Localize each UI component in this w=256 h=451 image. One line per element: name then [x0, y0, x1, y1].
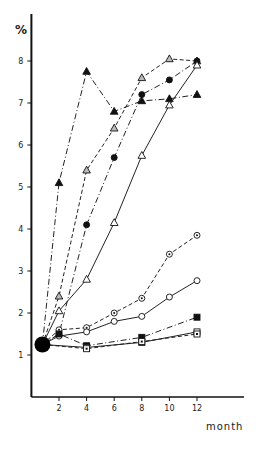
x-tick-label: 10: [164, 404, 174, 413]
filled-square-marker: [194, 314, 200, 320]
series-line: [42, 281, 197, 345]
y-tick-label: 8: [18, 57, 23, 66]
open-circle-marker: [194, 278, 200, 284]
x-tick-label: 2: [56, 404, 61, 413]
start-point-marker: [34, 337, 50, 353]
marker-dot: [141, 297, 143, 299]
marker-dot: [196, 234, 198, 236]
series-line: [42, 332, 197, 348]
series-open-square: [42, 329, 200, 351]
series-dotted-square: [42, 331, 200, 352]
series-dotted-circle: [42, 232, 200, 344]
series-line: [42, 59, 197, 345]
y-axis-label: %: [15, 23, 27, 37]
y-tick-label: 7: [18, 99, 23, 108]
series-shaded-triangle: [42, 55, 200, 345]
x-tick-label: 8: [139, 404, 144, 413]
open-triangle-marker: [83, 275, 91, 282]
filled-circle-marker: [111, 155, 117, 161]
marker-dot: [196, 333, 198, 335]
y-tick-label: 1: [18, 351, 23, 360]
filled-square-marker: [56, 331, 62, 337]
series-layer: [34, 55, 200, 353]
x-tick-label: 12: [192, 404, 202, 413]
open-triangle-marker: [110, 219, 118, 226]
marker-dot: [86, 348, 88, 350]
line-chart: 1234567824681012 % month: [0, 0, 256, 451]
filled-circle-marker: [84, 222, 90, 228]
open-triangle-marker: [138, 152, 146, 159]
y-tick-label: 2: [18, 309, 23, 318]
series-line: [42, 235, 197, 344]
y-tick-label: 6: [18, 141, 23, 150]
x-axis-label: month: [206, 421, 243, 432]
y-tick-label: 3: [18, 267, 23, 276]
y-tick-label: 4: [18, 225, 23, 234]
series-line: [42, 317, 197, 346]
marker-dot: [168, 253, 170, 255]
shaded-triangle-marker: [83, 166, 91, 173]
filled-circle-marker: [139, 92, 145, 98]
series-filled-square: [42, 314, 200, 349]
shaded-triangle-marker: [110, 124, 118, 131]
filled-triangle-marker: [193, 91, 201, 98]
axes: 1234567824681012: [18, 14, 244, 413]
open-circle-marker: [111, 318, 117, 324]
filled-triangle-marker: [55, 179, 63, 186]
shaded-triangle-marker: [138, 74, 146, 81]
y-tick-label: 5: [18, 183, 23, 192]
marker-dot: [58, 329, 60, 331]
series-open-triangle: [42, 61, 200, 344]
open-circle-marker: [139, 313, 145, 319]
open-circle-marker: [84, 329, 90, 335]
series-line: [42, 65, 197, 344]
series-filled-circle: [42, 58, 200, 345]
x-tick-label: 6: [112, 404, 117, 413]
shaded-triangle-marker: [166, 55, 174, 62]
marker-dot: [113, 312, 115, 314]
series-line: [42, 61, 197, 345]
open-circle-marker: [166, 294, 172, 300]
filled-circle-marker: [166, 77, 172, 83]
filled-triangle-marker: [83, 68, 91, 75]
x-tick-label: 4: [84, 404, 89, 413]
marker-dot: [86, 327, 88, 329]
marker-dot: [141, 341, 143, 343]
shaded-triangle-marker: [55, 292, 63, 299]
series-open-circle: [42, 278, 200, 345]
